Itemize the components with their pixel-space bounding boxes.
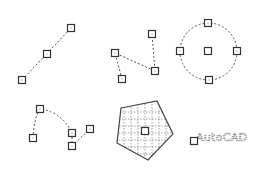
grip-icon[interactable] <box>149 31 156 38</box>
grip-icon[interactable] <box>44 51 51 58</box>
grip-icon[interactable] <box>191 138 198 145</box>
grip-icon[interactable] <box>205 48 212 55</box>
line-object[interactable] <box>19 25 75 84</box>
grip-icon[interactable] <box>87 126 94 133</box>
grip-icon[interactable] <box>69 130 76 137</box>
grip-icon[interactable] <box>234 48 241 55</box>
grip-icon[interactable] <box>19 77 26 84</box>
polyline-object[interactable] <box>112 31 159 83</box>
circle-object[interactable] <box>177 20 241 84</box>
grip-icon[interactable] <box>69 143 76 150</box>
grips-diagram: AutoCAD <box>0 0 266 172</box>
spline-object[interactable] <box>30 106 94 150</box>
polyline-path <box>115 34 155 79</box>
autocad-text: AutoCAD <box>196 131 247 144</box>
grip-icon[interactable] <box>68 25 75 32</box>
text-object[interactable]: AutoCAD <box>191 131 248 145</box>
hatch-object[interactable] <box>110 95 180 165</box>
grip-icon[interactable] <box>119 76 126 83</box>
grip-icon[interactable] <box>142 128 149 135</box>
grip-icon[interactable] <box>30 135 37 142</box>
grip-icon[interactable] <box>177 48 184 55</box>
grip-icon[interactable] <box>206 77 213 84</box>
spline-path <box>33 109 72 138</box>
grip-icon[interactable] <box>205 20 212 27</box>
grip-icon[interactable] <box>37 106 44 113</box>
grip-icon[interactable] <box>152 68 159 75</box>
grip-icon[interactable] <box>112 50 119 57</box>
